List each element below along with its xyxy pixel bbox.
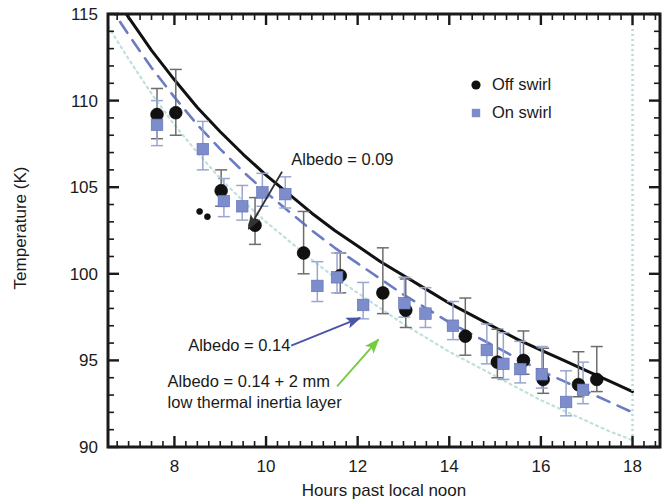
legend-marker-off-swirl [471,80,480,89]
x-axis-title: Hours past local noon [302,481,466,500]
data-point-on-swirl [197,143,209,155]
y-tick-label: 90 [79,438,98,457]
annotation-label-albedo-009: Albedo = 0.09 [291,150,393,168]
x-tick-label: 18 [623,457,642,476]
data-point-on-swirl [151,119,163,131]
annotation-label-albedo-014: Albedo = 0.14 [188,336,290,354]
data-point-off-swirl [204,214,210,220]
x-tick-label: 14 [440,457,459,476]
legend-marker-on-swirl [472,109,480,117]
annotation-label-albedo-014-layer-line1: Albedo = 0.14 + 2 mm [168,372,330,390]
data-point-off-swirl [459,330,472,343]
x-tick-label: 8 [170,457,179,476]
y-tick-label: 105 [70,178,98,197]
data-point-on-swirl [420,308,432,320]
data-point-on-swirl [536,368,548,380]
data-point-on-swirl [257,187,269,199]
data-point-on-swirl [399,297,411,309]
data-point-on-swirl [577,384,589,396]
data-point-off-swirl [197,208,203,214]
data-point-on-swirl [357,299,369,311]
data-point-off-swirl [590,373,603,386]
data-point-on-swirl [279,188,291,200]
data-point-on-swirl [560,396,572,408]
y-tick-label: 95 [79,351,98,370]
data-point-off-swirl [376,286,389,299]
annotation-label-albedo-014-layer-line2: low thermal inertia layer [168,393,343,411]
temperature-vs-hours-chart: 810121416189095100105110115 Albedo = 0.0… [0,0,666,503]
data-point-on-swirl [498,358,510,370]
y-tick-label: 100 [70,265,98,284]
data-point-on-swirl [514,363,526,375]
x-tick-label: 12 [348,457,367,476]
x-tick-label: 10 [257,457,276,476]
data-point-on-swirl [331,271,343,283]
data-point-on-swirl [236,200,248,212]
legend-label-on-swirl: On swirl [492,103,552,121]
data-point-on-swirl [218,195,230,207]
data-point-on-swirl [447,320,459,332]
y-axis-title: Temperature (K) [11,167,30,290]
y-tick-label: 110 [71,92,98,111]
x-tick-label: 16 [531,457,550,476]
y-tick-label: 115 [71,5,98,24]
data-point-off-swirl [169,106,182,119]
data-point-on-swirl [312,280,324,292]
data-point-off-swirl [297,247,310,260]
legend-label-off-swirl: Off swirl [492,75,551,93]
data-point-on-swirl [481,344,493,356]
chart-background [0,0,666,503]
chart-canvas: 810121416189095100105110115 Albedo = 0.0… [0,0,666,503]
